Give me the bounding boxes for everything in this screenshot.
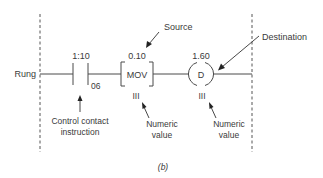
source-arrow-icon [146,32,159,48]
ladder-logic-diagram: Rung 1:10 06 MOV 0.10 III D 1.60 III Sou… [0,0,323,178]
destination-value: 1.60 [192,51,210,61]
destination-numeric-arrow-icon [209,102,216,118]
contact-arrow-icon [78,95,83,112]
destination-numeric-callout-line-2: value [219,130,240,140]
source-value: 0.10 [128,51,146,61]
contact-address: 1:10 [72,51,90,61]
control-contact-symbol [73,63,88,85]
destination-arrow-icon [218,36,259,71]
rung-label: Rung [14,69,36,79]
contact-bit: 06 [91,81,101,91]
mov-instruction-label: MOV [127,70,148,80]
contact-callout-line-2: instruction [61,127,100,137]
source-numeric-callout-line-2: value [152,130,173,140]
destination-symbol: D [198,70,205,80]
figure-caption: (b) [158,162,169,172]
source-numeric-callout-line-1: Numeric [146,119,178,129]
source-numeric-arrow-icon [142,102,149,118]
source-callout-label: Source [164,22,193,32]
source-numeric-marker: III [132,91,139,101]
destination-numeric-callout-line-1: Numeric [213,119,245,129]
destination-numeric-marker: III [198,91,205,101]
destination-callout-label: Destination [262,32,307,42]
contact-callout-line-1: Control contact [51,116,109,126]
